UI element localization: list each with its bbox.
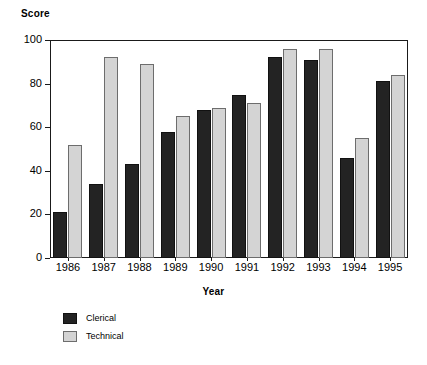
bar-clerical-1990 bbox=[197, 110, 211, 258]
y-axis-tick-60: 60 bbox=[8, 121, 42, 132]
bar-group-1994 bbox=[336, 40, 372, 258]
x-axis-tick-1990: 1990 bbox=[193, 261, 229, 273]
bar-technical-1989 bbox=[176, 116, 190, 258]
bar-clerical-1988 bbox=[125, 164, 139, 258]
x-axis-tick-labels: 1986198719881989199019911992199319941995 bbox=[50, 261, 408, 277]
legend-item-technical: Technical bbox=[63, 327, 124, 345]
bar-group-1990 bbox=[193, 40, 229, 258]
bar-technical-1990 bbox=[212, 108, 226, 258]
bar-clerical-1993 bbox=[304, 60, 318, 258]
x-axis-tickmark bbox=[175, 258, 176, 261]
y-axis-tick-40: 40 bbox=[8, 165, 42, 176]
bar-clerical-1994 bbox=[340, 158, 354, 258]
x-axis-tick-1988: 1988 bbox=[122, 261, 158, 273]
x-axis-tick-1995: 1995 bbox=[372, 261, 408, 273]
x-axis-tick-1989: 1989 bbox=[157, 261, 193, 273]
x-axis-tickmark bbox=[283, 258, 284, 261]
x-axis-tick-1993: 1993 bbox=[301, 261, 337, 273]
x-axis-tickmark bbox=[211, 258, 212, 261]
bar-technical-1986 bbox=[68, 145, 82, 258]
y-axis-tick-20: 20 bbox=[8, 208, 42, 219]
legend-label-technical: Technical bbox=[86, 331, 124, 341]
bar-technical-1994 bbox=[355, 138, 369, 258]
bar-group-1993 bbox=[301, 40, 337, 258]
x-axis-tick-1992: 1992 bbox=[265, 261, 301, 273]
bar-technical-1993 bbox=[319, 49, 333, 258]
bar-clerical-1987 bbox=[89, 184, 103, 258]
x-axis-tickmark bbox=[354, 258, 355, 261]
x-axis-tick-1994: 1994 bbox=[336, 261, 372, 273]
chart-legend: Clerical Technical bbox=[63, 309, 124, 345]
y-axis-tickmark bbox=[45, 258, 50, 259]
bar-group-1986 bbox=[50, 40, 86, 258]
x-axis-tickmark bbox=[390, 258, 391, 261]
x-axis-tick-1986: 1986 bbox=[50, 261, 86, 273]
bar-clerical-1986 bbox=[53, 212, 67, 258]
legend-label-clerical: Clerical bbox=[86, 313, 116, 323]
x-axis-tickmark bbox=[140, 258, 141, 261]
bar-technical-1991 bbox=[247, 103, 261, 258]
y-axis-title: Score bbox=[21, 8, 50, 19]
y-axis-tick-0: 0 bbox=[8, 252, 42, 263]
y-axis-tick-80: 80 bbox=[8, 78, 42, 89]
legend-swatch-clerical-icon bbox=[63, 313, 77, 324]
bar-technical-1992 bbox=[283, 49, 297, 258]
bar-group-1987 bbox=[86, 40, 122, 258]
bar-clerical-1991 bbox=[232, 95, 246, 259]
bar-technical-1988 bbox=[140, 64, 154, 258]
legend-swatch-technical-icon bbox=[63, 331, 77, 342]
x-axis-tickmark bbox=[104, 258, 105, 261]
bar-group-1995 bbox=[372, 40, 408, 258]
bar-group-1992 bbox=[265, 40, 301, 258]
x-axis-tick-1991: 1991 bbox=[229, 261, 265, 273]
bar-clerical-1989 bbox=[161, 132, 175, 258]
x-axis-tickmark bbox=[247, 258, 248, 261]
bar-technical-1995 bbox=[391, 75, 405, 258]
bar-group-1989 bbox=[157, 40, 193, 258]
y-axis-tick-100: 100 bbox=[8, 34, 42, 45]
legend-item-clerical: Clerical bbox=[63, 309, 124, 327]
x-axis-title: Year bbox=[0, 286, 427, 297]
bar-group-1988 bbox=[122, 40, 158, 258]
x-axis-tickmark bbox=[68, 258, 69, 261]
bars-layer bbox=[50, 40, 408, 258]
x-axis-tick-1987: 1987 bbox=[86, 261, 122, 273]
bar-group-1991 bbox=[229, 40, 265, 258]
x-axis-tickmark bbox=[319, 258, 320, 261]
bar-technical-1987 bbox=[104, 57, 118, 258]
bar-clerical-1995 bbox=[376, 81, 390, 258]
bar-clerical-1992 bbox=[268, 57, 282, 258]
bar-chart-figure: Score 020406080100 198619871988198919901… bbox=[0, 0, 427, 365]
